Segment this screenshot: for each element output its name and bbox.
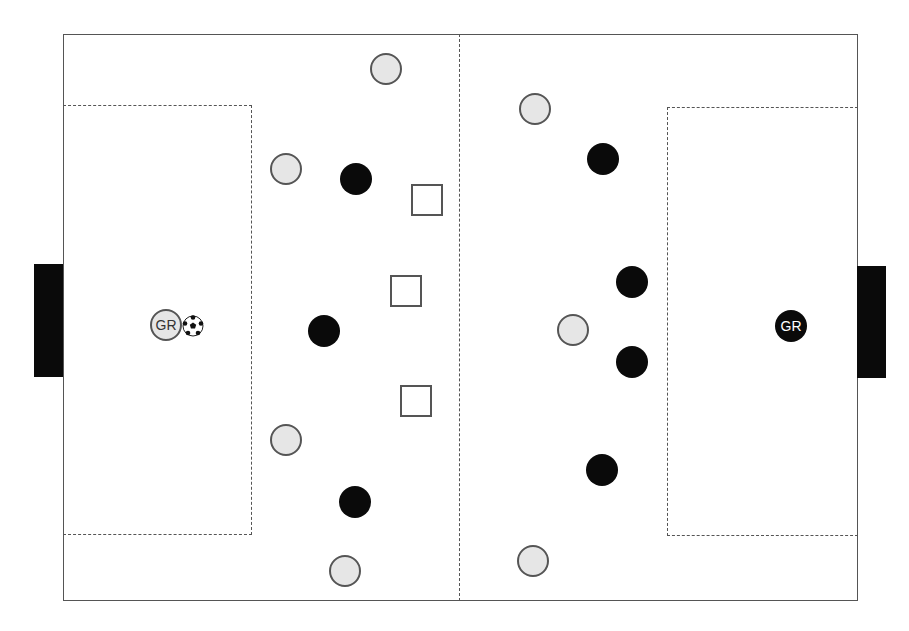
goalkeeper-light: GR <box>150 309 182 341</box>
dark-team-player <box>587 143 619 175</box>
cone-marker <box>390 275 422 307</box>
dark-team-player <box>340 163 372 195</box>
goal-left <box>34 264 63 377</box>
halfway-line <box>459 34 460 601</box>
light-team-player <box>370 53 402 85</box>
light-team-player <box>270 153 302 185</box>
light-team-player <box>270 424 302 456</box>
cone-marker <box>400 385 432 417</box>
light-team-player <box>519 93 551 125</box>
dark-team-player <box>616 266 648 298</box>
dark-team-player <box>586 454 618 486</box>
goal-right <box>857 266 886 378</box>
dark-team-player <box>616 346 648 378</box>
soccer-ball-icon <box>182 315 204 337</box>
dark-team-player <box>308 315 340 347</box>
light-team-player <box>557 314 589 346</box>
goalkeeper-dark: GR <box>775 310 807 342</box>
light-team-player <box>517 545 549 577</box>
cone-marker <box>411 184 443 216</box>
penalty-area-right <box>667 107 858 536</box>
dark-team-player <box>339 486 371 518</box>
light-team-player <box>329 555 361 587</box>
